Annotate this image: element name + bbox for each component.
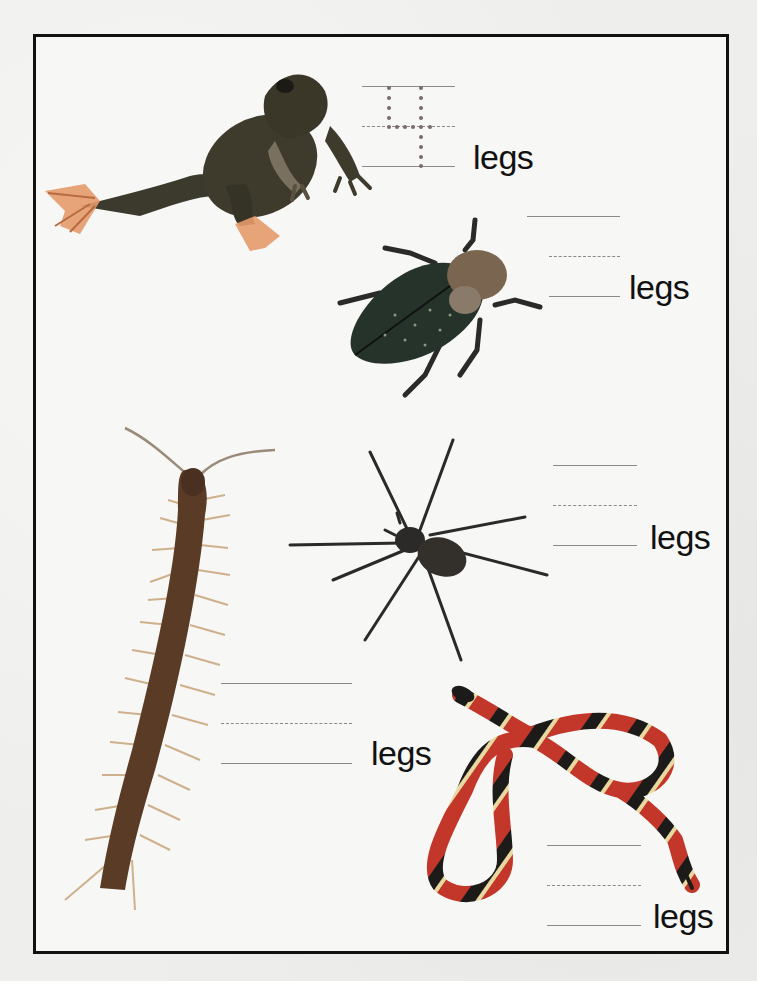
centipede-icon (40, 420, 280, 920)
legs-label: legs (629, 270, 689, 304)
legs-label: legs (650, 520, 710, 554)
mid-dashed-line (547, 885, 641, 886)
frog-image (40, 66, 380, 266)
frog-icon (40, 66, 380, 266)
top-line (362, 86, 455, 87)
base-line (221, 763, 352, 764)
base-line (553, 545, 637, 546)
mid-dashed-line (362, 126, 455, 127)
spider-image (285, 435, 555, 665)
top-line (527, 216, 620, 217)
spider-icon (285, 435, 555, 665)
base-line (547, 925, 641, 926)
base-line (549, 296, 620, 297)
beetle-icon (335, 215, 550, 400)
answer-block-frog[interactable]: legs (362, 86, 562, 196)
legs-label: legs (473, 140, 533, 174)
mid-dashed-line (549, 256, 620, 257)
mid-dashed-line (221, 723, 352, 724)
answer-block-snake[interactable]: legs (547, 845, 747, 955)
beetle-image (335, 215, 550, 400)
centipede-image (40, 420, 280, 920)
answer-block-beetle[interactable]: legs (527, 216, 727, 326)
mid-dashed-line (553, 505, 637, 506)
legs-label: legs (653, 899, 713, 933)
top-line (553, 465, 637, 466)
answer-block-spider[interactable]: legs (553, 465, 753, 575)
top-line (547, 845, 641, 846)
top-line (221, 683, 352, 684)
base-line (362, 166, 455, 167)
answer-block-centipede[interactable]: legs (221, 683, 451, 793)
